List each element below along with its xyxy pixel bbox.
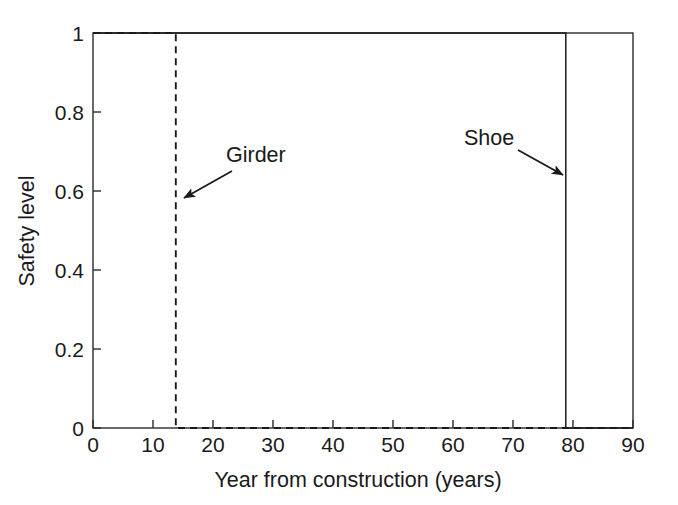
plot-border — [93, 33, 633, 428]
y-tick-label-0.8: 0.8 — [55, 101, 84, 124]
x-axis-ticks — [93, 420, 633, 428]
x-tick-label-90: 90 — [621, 433, 644, 456]
annotation-girder: Girder — [184, 143, 286, 198]
girder-step-line — [93, 33, 633, 428]
x-tick-label-50: 50 — [381, 433, 404, 456]
shoe-annotation-label: Shoe — [464, 126, 514, 150]
y-tick-label-0.4: 0.4 — [55, 259, 85, 282]
y-axis-title: Safety level — [15, 175, 39, 286]
x-tick-label-80: 80 — [561, 433, 584, 456]
y-tick-label-0.6: 0.6 — [55, 180, 84, 203]
x-tick-label-30: 30 — [261, 433, 284, 456]
y-tick-label-0: 0 — [72, 417, 84, 440]
x-tick-label-60: 60 — [441, 433, 464, 456]
safety-level-chart: 0 10 20 30 40 50 60 70 80 90 0 0.2 0.4 0… — [0, 0, 678, 505]
shoe-step-line — [93, 33, 633, 428]
y-tick-labels: 0 0.2 0.4 0.6 0.8 1 — [55, 22, 85, 440]
x-tick-label-20: 20 — [201, 433, 224, 456]
series-shoe — [93, 33, 633, 428]
girder-annotation-label: Girder — [226, 143, 286, 167]
plot-frame — [93, 33, 633, 428]
x-tick-label-0: 0 — [87, 433, 99, 456]
x-tick-label-40: 40 — [321, 433, 344, 456]
x-tick-label-70: 70 — [501, 433, 524, 456]
y-tick-label-0.2: 0.2 — [55, 338, 84, 361]
y-tick-label-1: 1 — [72, 22, 84, 45]
x-tick-label-10: 10 — [141, 433, 164, 456]
annotation-shoe: Shoe — [464, 126, 563, 175]
series-girder — [93, 33, 633, 428]
x-axis-title: Year from construction (years) — [214, 468, 501, 492]
chart-page: 0 10 20 30 40 50 60 70 80 90 0 0.2 0.4 0… — [0, 0, 678, 505]
y-axis-ticks — [93, 33, 101, 428]
girder-annotation-arrow — [184, 171, 232, 198]
x-tick-labels: 0 10 20 30 40 50 60 70 80 90 — [87, 433, 645, 456]
shoe-annotation-arrow — [518, 150, 563, 175]
